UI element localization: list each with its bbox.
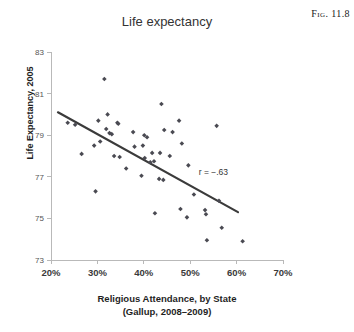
data-point-marker [65, 120, 70, 125]
correlation-annotation: r = −.63 [199, 167, 229, 177]
x-tick-label: 40% [134, 267, 154, 278]
data-point-marker [131, 130, 136, 135]
y-tick-label: 73 [35, 256, 44, 265]
x-tick-label: 50% [181, 267, 201, 278]
x-tick-label: 20% [41, 267, 61, 278]
data-point-marker [157, 177, 162, 182]
x-tick-label: 60% [227, 267, 247, 278]
data-point-marker [153, 211, 158, 216]
data-point-marker [214, 124, 219, 129]
data-point-marker [152, 159, 157, 164]
y-tick-label: 81 [35, 90, 44, 99]
data-point-marker [98, 139, 103, 144]
data-point-marker [159, 102, 164, 107]
data-point-marker [203, 208, 208, 213]
trend-line [58, 112, 238, 212]
data-point-marker [162, 128, 167, 133]
data-point-marker [96, 118, 101, 123]
x-tick-label: 30% [88, 267, 108, 278]
data-point-marker [124, 166, 129, 171]
data-point-marker [112, 154, 117, 159]
data-point-marker [180, 141, 185, 146]
x-axis-title-line-2: (Gallup, 2008–2009) [31, 305, 303, 318]
data-point-marker [219, 225, 224, 230]
data-point-marker [79, 152, 84, 157]
data-point-marker [104, 127, 109, 132]
data-point-marker [240, 239, 245, 244]
x-axis-title: Religious Attendance, by State (Gallup, … [31, 292, 303, 318]
data-point-marker [170, 130, 175, 135]
scatter-plot: 73757779818320%30%40%50%60%70%r = −.63 [0, 0, 354, 332]
data-point-marker [92, 143, 97, 148]
data-point-marker [105, 112, 110, 117]
data-point-marker [150, 151, 155, 156]
data-point-marker [141, 143, 146, 148]
y-tick-label: 79 [35, 131, 44, 140]
data-point-marker [139, 173, 144, 178]
data-point-marker [132, 144, 137, 149]
data-point-marker [167, 154, 172, 159]
y-tick-label: 75 [35, 214, 44, 223]
y-tick-label: 77 [35, 173, 44, 182]
data-point-marker [161, 178, 166, 183]
data-point-marker [192, 192, 197, 197]
data-point-marker [117, 155, 122, 160]
data-point-marker [177, 118, 182, 123]
x-tick-label: 70% [273, 267, 293, 278]
data-point-marker [185, 215, 190, 220]
data-point-marker [178, 207, 183, 212]
y-tick-label: 83 [35, 48, 44, 57]
figure-container: Fig. 11.8 Life expectancy Life Expectanc… [0, 0, 354, 332]
data-point-marker [158, 151, 163, 156]
data-point-marker [102, 77, 107, 82]
data-point-marker [205, 238, 210, 243]
x-axis-title-line-1: Religious Attendance, by State [31, 292, 303, 305]
data-point-marker [93, 189, 98, 194]
data-point-marker [186, 163, 191, 168]
data-point-marker [204, 212, 209, 217]
